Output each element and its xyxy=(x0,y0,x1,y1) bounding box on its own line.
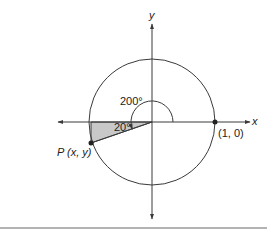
angle-200-label: 200° xyxy=(120,95,143,107)
x-axis-label: x xyxy=(251,115,258,127)
point-p xyxy=(89,141,94,146)
point-1-0 xyxy=(213,120,218,125)
unit-circle-diagram: y x 200° 20° (1, 0) P (x, y) xyxy=(0,0,267,234)
point-p-label: P (x, y) xyxy=(57,146,92,158)
angle-20-label: 20° xyxy=(114,121,131,133)
y-axis-label: y xyxy=(148,9,156,21)
point-1-0-label: (1, 0) xyxy=(218,127,244,139)
